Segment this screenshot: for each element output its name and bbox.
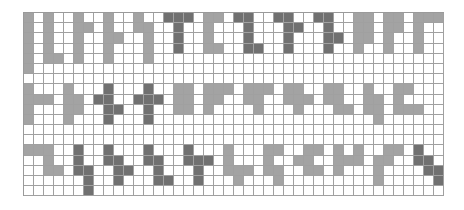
grid-cell-empty [314,44,324,54]
grid-cell-empty [64,186,74,196]
grid-cell-empty [214,105,224,115]
grid-cell-gray [214,44,224,54]
grid-cell-empty [304,74,314,84]
grid-cell-gray [204,13,214,23]
grid-cell-gray [44,23,54,33]
grid-cell-empty [404,23,414,33]
grid-cell-dark [284,33,294,43]
grid-cell-empty [224,186,234,196]
grid-cell-empty [414,125,424,135]
grid-cell-empty [364,54,374,64]
grid-cell-empty [344,23,354,33]
grid-cell-gray [304,166,314,176]
grid-cell-gray [384,156,394,166]
grid-cell-empty [264,74,274,84]
grid-cell-empty [364,44,374,54]
grid-cell-empty [374,74,384,84]
grid-cell-gray [274,166,284,176]
grid-cell-dark [314,13,324,23]
grid-cell-empty [274,135,284,145]
grid-cell-empty [154,186,164,196]
grid-cell-gray [374,176,384,186]
grid-cell-empty [434,156,444,166]
grid-cell-empty [114,13,124,23]
grid-cell-empty [384,64,394,74]
grid-cell-empty [204,186,214,196]
grid-cell-empty [434,84,444,94]
grid-cell-empty [134,125,144,135]
grid-cell-gray [384,33,394,43]
grid-cell-empty [434,105,444,115]
grid-cell-empty [194,186,204,196]
grid-cell-gray [24,84,34,94]
grid-cell-empty [214,135,224,145]
grid-cell-empty [354,186,364,196]
grid-cell-empty [224,74,234,84]
grid-cell-empty [364,125,374,135]
grid-cell-empty [344,95,354,105]
grid-cell-dark [194,176,204,186]
grid-cell-empty [434,54,444,64]
grid-cell-gray [424,13,434,23]
grid-cell-empty [394,166,404,176]
grid-cell-empty [204,166,214,176]
grid-cell-empty [394,33,404,43]
grid-cell-dark [324,33,334,43]
grid-cell-empty [324,115,334,125]
grid-cell-gray [44,156,54,166]
grid-cell-empty [54,135,64,145]
grid-cell-empty [354,176,364,186]
grid-cell-gray [364,84,374,94]
grid-cell-empty [164,64,174,74]
grid-cell-dark [84,176,94,186]
grid-cell-gray [384,23,394,33]
grid-cell-empty [164,44,174,54]
grid-cell-empty [194,95,204,105]
grid-cell-gray [44,166,54,176]
grid-cell-empty [394,115,404,125]
grid-cell-empty [124,23,134,33]
grid-cell-empty [314,54,324,64]
grid-cell-empty [434,74,444,84]
grid-cell-empty [194,44,204,54]
grid-cell-empty [64,74,74,84]
grid-cell-empty [84,54,94,64]
grid-cell-empty [214,176,224,186]
grid-cell-empty [234,64,244,74]
grid-cell-empty [264,105,274,115]
grid-cell-empty [314,105,324,115]
grid-cell-dark [114,105,124,115]
grid-cell-empty [74,125,84,135]
grid-cell-empty [374,84,384,94]
grid-cell-empty [74,74,84,84]
grid-cell-gray [74,44,84,54]
grid-cell-empty [184,33,194,43]
grid-cell-gray [374,115,384,125]
grid-cell-empty [324,186,334,196]
grid-cell-empty [54,105,64,115]
grid-cell-empty [304,44,314,54]
grid-cell-empty [124,176,134,186]
grid-cell-empty [314,186,324,196]
grid-cell-empty [174,74,184,84]
grid-cell-empty [404,166,414,176]
grid-cell-empty [434,64,444,74]
grid-cell-empty [34,135,44,145]
grid-cell-empty [134,166,144,176]
grid-cell-empty [84,145,94,155]
grid-cell-empty [114,74,124,84]
grid-cell-empty [314,23,324,33]
grid-cell-empty [184,125,194,135]
grid-cell-empty [424,33,434,43]
grid-cell-gray [244,95,254,105]
grid-cell-empty [294,54,304,64]
grid-cell-empty [184,186,194,196]
grid-cell-empty [244,105,254,115]
grid-cell-empty [404,64,414,74]
grid-cell-empty [24,135,34,145]
grid-cell-gray [314,145,324,155]
grid-cell-empty [254,54,264,64]
grid-cell-empty [304,33,314,43]
grid-cell-empty [34,166,44,176]
grid-cell-empty [224,33,234,43]
